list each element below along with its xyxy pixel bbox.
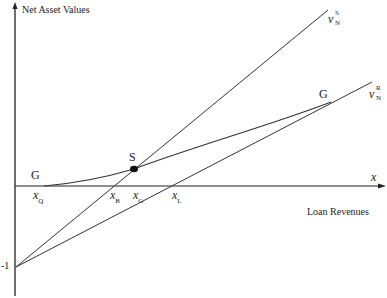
label-g-right: G [319, 88, 328, 100]
curve-g [44, 102, 331, 186]
line-vns [16, 10, 328, 267]
y-intercept-label: -1 [1, 261, 9, 271]
x-axis-arrow-icon [378, 184, 386, 189]
label-vnr: vRN [369, 88, 374, 100]
tick-xb: xB [110, 189, 120, 201]
y-axis-label: Net Asset Values [22, 5, 90, 15]
diagram-canvas [0, 0, 387, 298]
tick-xq: xQ [33, 189, 43, 201]
point-s [130, 166, 138, 172]
tick-xg: xG [133, 189, 143, 201]
label-s: S [129, 151, 136, 163]
x-axis-label: Loan Revenues [307, 207, 369, 217]
line-vnr [16, 82, 372, 267]
tick-xl: xL [172, 189, 182, 201]
label-g-left: G [31, 169, 40, 181]
label-vns: vSN [328, 13, 333, 25]
y-axis-arrow-icon [13, 2, 18, 9]
x-axis-symbol: x [371, 171, 376, 183]
